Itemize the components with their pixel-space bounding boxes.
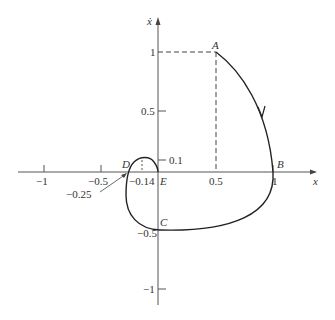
x-tick-label-0.5: 0.5 (209, 175, 223, 187)
x-tick-label--0.5: −0.5 (88, 175, 108, 187)
point-e-label: E (159, 175, 167, 187)
phase-plane-diagram: ẋ x −1 −0.5 0.5 1 1 0.5 0.1 −0.5 −1 −0.1… (0, 0, 335, 320)
x-axis-arrow-icon (310, 170, 317, 175)
point-d-label: D (121, 158, 130, 170)
point-b-label: B (277, 158, 284, 170)
y-tick-label--0.5: −0.5 (137, 227, 157, 239)
y-axis-arrow-icon (156, 17, 161, 25)
y-axis-label: ẋ (146, 15, 152, 27)
peak-x-label: −0.14 (129, 175, 155, 187)
point-a-label: A (211, 39, 219, 51)
y-tick-label-1: 1 (150, 46, 156, 58)
point-a-guides (158, 52, 216, 172)
y-tick-label-0.5: 0.5 (141, 105, 155, 117)
point-c-label: C (160, 216, 168, 228)
y-tick-label--1: −1 (143, 283, 155, 295)
x-tick-label--1: −1 (36, 175, 48, 187)
x-axis-label: x (312, 175, 318, 187)
y-axis (156, 17, 167, 305)
d-value-label: −0.25 (66, 188, 92, 200)
x-tick-label-1: 1 (272, 175, 278, 187)
trajectory-curve (126, 52, 273, 230)
y-tick-label-0.1: 0.1 (169, 154, 183, 166)
